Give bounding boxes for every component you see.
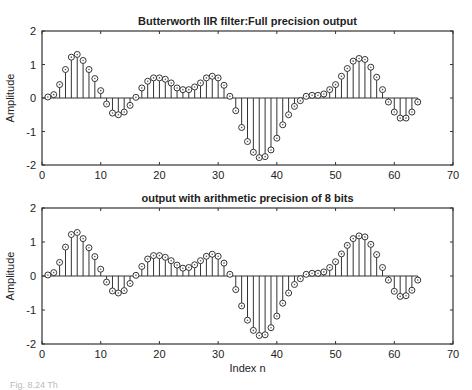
x-tick-label: 60 xyxy=(388,348,400,360)
plot-title: output with arithmetic precision of 8 bi… xyxy=(141,192,353,204)
y-tick-label: 1 xyxy=(30,236,36,248)
y-tick-label: -1 xyxy=(26,304,36,316)
x-tick-label: 20 xyxy=(153,348,165,360)
x-tick-label: 50 xyxy=(329,169,341,181)
x-tick-label: 70 xyxy=(447,348,459,360)
x-tick-label: 0 xyxy=(39,348,45,360)
x-tick-label: 0 xyxy=(39,169,45,181)
x-tick-label: 30 xyxy=(212,169,224,181)
plot-title: Butterworth IIR filter:Full precision ou… xyxy=(138,15,357,27)
y-tick-label: 0 xyxy=(30,92,36,104)
figure: 010203040506070-2-1012Butterworth IIR fi… xyxy=(0,0,472,390)
x-tick-label: 70 xyxy=(447,169,459,181)
x-tick-label: 40 xyxy=(271,348,283,360)
y-tick-label: 1 xyxy=(30,59,36,71)
y-tick-label: -2 xyxy=(26,338,36,350)
x-tick-label: 50 xyxy=(329,348,341,360)
y-tick-label: 0 xyxy=(30,270,36,282)
x-axis-label: Index n xyxy=(229,362,265,374)
figure-caption: Fig. 8.24 Th xyxy=(10,380,58,390)
x-tick-label: 60 xyxy=(388,169,400,181)
y-tick-label: 2 xyxy=(30,25,36,37)
x-tick-label: 30 xyxy=(212,348,224,360)
y-tick-label: -2 xyxy=(26,159,36,171)
y-tick-label: 2 xyxy=(30,202,36,214)
x-tick-label: 10 xyxy=(95,348,107,360)
y-axis-label: Amplitude xyxy=(4,74,16,123)
x-tick-label: 10 xyxy=(95,169,107,181)
x-tick-label: 20 xyxy=(153,169,165,181)
y-tick-label: -1 xyxy=(26,126,36,138)
plot-full-precision: 010203040506070-2-1012Butterworth IIR fi… xyxy=(4,15,459,181)
plot-8bit-precision: 010203040506070-2-1012output with arithm… xyxy=(4,192,459,374)
x-tick-label: 40 xyxy=(271,169,283,181)
y-axis-label: Amplitude xyxy=(4,252,16,301)
